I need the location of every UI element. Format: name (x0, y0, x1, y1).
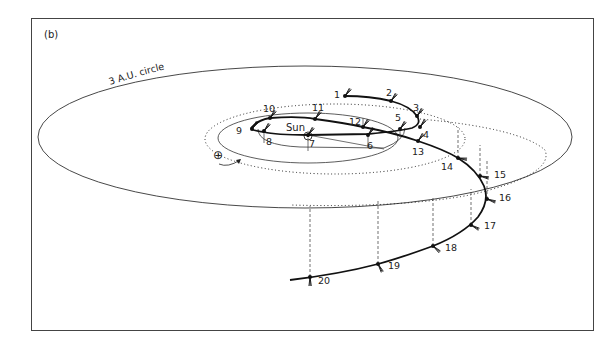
earth-arrow-head (236, 159, 241, 164)
position-label: 2 (386, 87, 392, 98)
drop-lines-dashed (310, 127, 487, 277)
comet-position-8: 8 (262, 123, 272, 147)
position-label: 12 (349, 116, 361, 127)
three-au-circle (38, 66, 572, 208)
diagram-svg: 3 A.U. circle Sun (0, 0, 612, 353)
comet-position-19: 19 (376, 260, 400, 272)
figure: (b) 3 A.U. circle Sun (0, 0, 612, 353)
position-label: 7 (309, 138, 315, 149)
comet-position-4: 4 (418, 119, 429, 140)
comet-position-16: 16 (485, 192, 511, 203)
position-label: 6 (367, 140, 373, 151)
position-label: 16 (499, 192, 511, 203)
position-label: 17 (484, 220, 496, 231)
position-label: 3 (413, 102, 419, 113)
comet-position-11: 11 (312, 102, 324, 121)
position-label: 5 (395, 112, 401, 123)
position-label: 10 (263, 103, 275, 114)
comet-position-18: 18 (431, 242, 457, 253)
comet-position-9: 9 (236, 121, 258, 136)
comet-position-14: 14 (441, 156, 467, 172)
position-label: 15 (494, 169, 506, 180)
comet-position-15: 15 (478, 169, 506, 180)
sun-label: Sun (286, 122, 305, 133)
position-label: 14 (441, 161, 453, 172)
position-label: 18 (445, 242, 457, 253)
position-label: 9 (236, 125, 242, 136)
comet-position-3: 3 (413, 102, 423, 118)
comet-position-1: 1 (334, 88, 351, 100)
earth-icon: ⊕ (213, 148, 223, 162)
comet-position-6: 6 (366, 127, 374, 151)
position-label: 13 (412, 146, 424, 157)
position-label: 20 (318, 275, 330, 286)
comet-position-7: 7 (306, 127, 315, 149)
three-au-circle-label: 3 A.U. circle (107, 61, 165, 87)
position-label: 1 (334, 89, 340, 100)
comet-position-20: 20 (308, 275, 330, 286)
position-label: 11 (312, 102, 324, 113)
position-label: 19 (388, 260, 400, 271)
position-label: 8 (266, 136, 272, 147)
comet-position-13: 13 (412, 133, 424, 157)
